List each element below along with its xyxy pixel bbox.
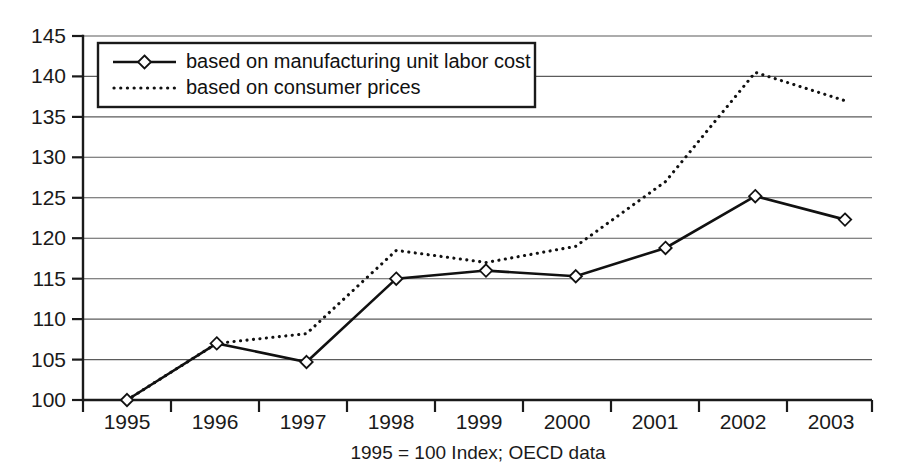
dotted-line-path xyxy=(127,72,845,400)
x-tick-label-2000: 2000 xyxy=(544,410,591,433)
data-point-marker xyxy=(839,213,851,225)
data-point-marker xyxy=(211,337,223,349)
x-tick-label-1998: 1998 xyxy=(368,410,415,433)
x-tick-label-2001: 2001 xyxy=(632,410,679,433)
y-axis xyxy=(72,35,83,401)
y-tick-label-115: 115 xyxy=(33,267,66,290)
y-tick-label-100: 100 xyxy=(31,388,66,411)
series-manufacturing-unit-labor-cost xyxy=(121,190,851,406)
y-tick-label-120: 120 xyxy=(31,226,66,249)
x-tick-label-1997: 1997 xyxy=(280,410,327,433)
x-tick-labels: 1995 1996 1997 1998 1999 2000 2001 2002 … xyxy=(104,410,855,433)
legend-label-consumer-prices: based on consumer prices xyxy=(186,76,421,98)
line-chart: 145 140 135 130 125 120 115 110 105 100 xyxy=(0,0,904,471)
data-point-marker xyxy=(480,264,492,276)
solid-line-path xyxy=(127,196,845,400)
y-tick-label-105: 105 xyxy=(31,348,66,371)
solid-line-markers xyxy=(121,190,851,406)
y-tick-label-125: 125 xyxy=(31,186,66,209)
x-tick-label-1995: 1995 xyxy=(104,410,151,433)
y-tick-labels: 145 140 135 130 125 120 115 110 105 100 xyxy=(31,24,66,411)
y-tick-label-140: 140 xyxy=(31,64,66,87)
legend-label-manufacturing: based on manufacturing unit labor cost xyxy=(186,50,531,72)
x-tick-label-2003: 2003 xyxy=(808,410,855,433)
x-tick-label-2002: 2002 xyxy=(720,410,767,433)
x-tick-label-1999: 1999 xyxy=(456,410,503,433)
y-tick-label-135: 135 xyxy=(31,105,66,128)
series-consumer-prices xyxy=(127,72,845,400)
data-point-marker xyxy=(659,242,671,254)
data-point-marker xyxy=(749,190,761,202)
data-point-marker xyxy=(570,270,582,282)
chart-caption: 1995 = 100 Index; OECD data xyxy=(350,442,606,463)
y-tick-label-130: 130 xyxy=(31,145,66,168)
y-tick-label-110: 110 xyxy=(33,307,66,330)
chart-legend: based on manufacturing unit labor cost b… xyxy=(98,43,535,107)
y-tick-label-145: 145 xyxy=(31,24,66,47)
x-tick-label-1996: 1996 xyxy=(192,410,239,433)
chart-container: 145 140 135 130 125 120 115 110 105 100 xyxy=(0,0,904,471)
